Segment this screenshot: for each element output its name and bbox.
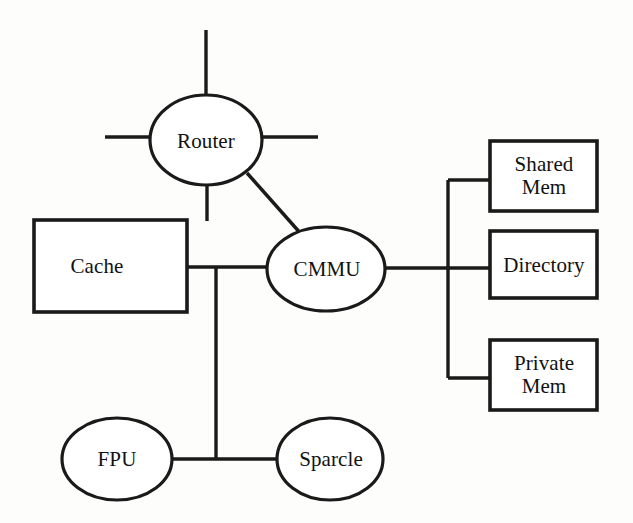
node-shared-mem-shape[interactable]	[490, 141, 597, 211]
link-router-cmmu	[247, 173, 302, 235]
node-cmmu-shape[interactable]	[267, 227, 385, 311]
node-private-mem-shape[interactable]	[490, 340, 597, 410]
node-shapes	[34, 95, 597, 500]
node-router-shape[interactable]	[150, 95, 262, 185]
node-cache-shape[interactable]	[34, 220, 187, 312]
block-diagram: Router CMMU FPU Sparcle Cache Shared Mem…	[0, 0, 633, 523]
node-sparcle-shape[interactable]	[277, 418, 383, 500]
diagram-canvas	[0, 0, 633, 523]
node-fpu-shape[interactable]	[62, 418, 172, 500]
node-directory-shape[interactable]	[490, 231, 597, 298]
